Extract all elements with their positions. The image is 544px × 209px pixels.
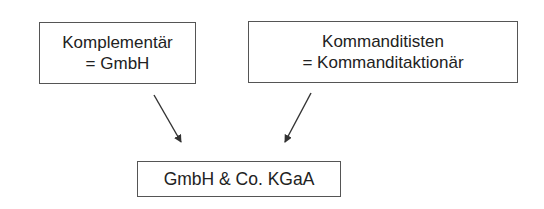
- node-gmbh-co-kgaa-label: GmbH & Co. KGaA: [164, 169, 315, 190]
- arrow-kommanditisten-to-result: [285, 93, 311, 142]
- node-kommanditisten-line2: = Kommanditaktionär: [302, 52, 463, 73]
- node-gmbh-co-kgaa: GmbH & Co. KGaA: [137, 161, 341, 197]
- node-komplementaer: Komplementär = GmbH: [39, 22, 196, 84]
- node-kommanditisten-line1: Kommanditisten: [322, 31, 444, 52]
- node-komplementaer-line1: Komplementär: [62, 32, 173, 53]
- arrow-komplementaer-to-result: [154, 95, 181, 142]
- node-komplementaer-line2: = GmbH: [86, 53, 150, 74]
- node-kommanditisten: Kommanditisten = Kommanditaktionär: [248, 21, 518, 83]
